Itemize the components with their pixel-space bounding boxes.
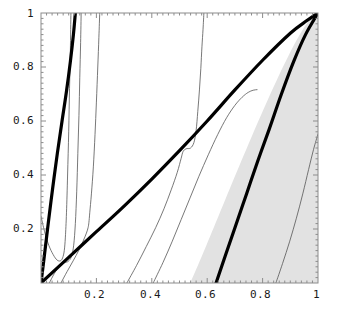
x-tick-label-0.4: 0.4 bbox=[140, 288, 161, 301]
x-tick-label-0.8: 0.8 bbox=[250, 288, 271, 301]
y-tick-label-0.8: 0.8 bbox=[2, 60, 34, 73]
x-tick-label-1: 1 bbox=[313, 288, 320, 301]
contour-plot bbox=[0, 0, 338, 312]
x-tick-label-0.2: 0.2 bbox=[84, 288, 105, 301]
y-tick-label-1: 1 bbox=[4, 7, 34, 20]
y-tick-label-0.2: 0.2 bbox=[2, 222, 34, 235]
chart-page: 1 0.8 0.6 0.4 0.2 0.2 0.4 0.6 0.8 1 bbox=[0, 0, 338, 312]
x-tick-label-0.6: 0.6 bbox=[195, 288, 216, 301]
y-tick-label-0.4: 0.4 bbox=[2, 168, 34, 181]
y-tick-label-0.6: 0.6 bbox=[2, 114, 34, 127]
